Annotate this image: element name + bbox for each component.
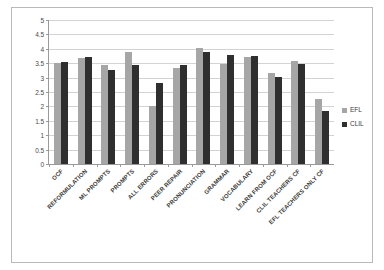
x-axis-tick-label: OCF xyxy=(51,168,64,181)
y-axis-tick-label: 2 xyxy=(40,103,44,110)
bar-efl xyxy=(149,106,156,164)
bar-clil xyxy=(180,65,187,164)
bar-efl xyxy=(78,58,85,164)
legend-label: EFL xyxy=(350,107,362,114)
bar-group xyxy=(73,20,97,164)
bar-clil xyxy=(251,56,258,164)
bar-efl xyxy=(220,64,227,164)
y-axis-tick-label: 0 xyxy=(40,161,44,168)
bar-efl xyxy=(173,68,180,164)
bar-group xyxy=(287,20,311,164)
bar-group xyxy=(215,20,239,164)
y-axis-tick-label: 4.5 xyxy=(35,31,44,38)
bar-group xyxy=(49,20,73,164)
bar-clil xyxy=(322,111,329,164)
bar-group xyxy=(120,20,144,164)
bar-group xyxy=(192,20,216,164)
bar-clil xyxy=(156,83,163,164)
y-axis-tick-label: 3.5 xyxy=(35,60,44,67)
bar-efl xyxy=(315,99,322,164)
y-axis-tick-label: 2.5 xyxy=(35,89,44,96)
y-axis-tick-label: 4 xyxy=(40,45,44,52)
bar-efl xyxy=(291,61,298,164)
bar-group xyxy=(97,20,121,164)
bar-group xyxy=(144,20,168,164)
bar-clil xyxy=(298,64,305,164)
bar-group xyxy=(263,20,287,164)
legend-label: CLIL xyxy=(350,121,364,128)
bar-efl xyxy=(268,73,275,164)
y-axis-tick-label: 0.5 xyxy=(35,146,44,153)
bar-efl xyxy=(125,52,132,164)
bar-efl xyxy=(244,57,251,164)
bar-clil xyxy=(85,57,92,164)
x-axis-tick-label: LEARN FROM OCF xyxy=(234,168,278,212)
y-axis-tick-label: 1.5 xyxy=(35,117,44,124)
y-axis-tick-label: 1 xyxy=(40,132,44,139)
bar-clil xyxy=(227,55,234,164)
bar-efl xyxy=(54,63,61,164)
bar-group xyxy=(239,20,263,164)
y-axis-tick-label: 5 xyxy=(40,17,44,24)
bar-clil xyxy=(61,62,68,164)
legend-swatch xyxy=(342,122,347,127)
bar-group xyxy=(168,20,192,164)
bar-efl xyxy=(101,65,108,164)
y-axis-tick-label: 3 xyxy=(40,74,44,81)
bar-group xyxy=(310,20,334,164)
bar-clil xyxy=(108,70,115,164)
legend-item-clil: CLIL xyxy=(342,117,384,131)
x-axis-tick-labels: OCFREFORMULATIONML PROMPTSPROMPTSALL ERR… xyxy=(48,165,333,245)
bar-clil xyxy=(203,52,210,164)
x-axis-tick-label: CLIL TEACHERS CF xyxy=(256,168,302,214)
bar-clil xyxy=(132,65,139,164)
plot-area: 00.511.522.533.544.55 xyxy=(48,20,334,165)
legend-item-efl: EFL xyxy=(342,103,384,117)
chart-figure: 00.511.522.533.544.55 OCFREFORMULATIONML… xyxy=(11,7,373,263)
legend-swatch xyxy=(342,108,347,113)
bar-groups xyxy=(49,20,334,164)
bar-efl xyxy=(196,48,203,164)
bar-clil xyxy=(275,77,282,164)
chart-legend: EFLCLIL xyxy=(342,103,384,131)
